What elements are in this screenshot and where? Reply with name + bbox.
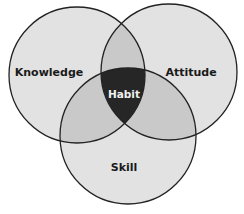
skill-label: Skill bbox=[111, 161, 138, 174]
knowledge-label: Knowledge bbox=[15, 66, 84, 79]
attitude-label: Attitude bbox=[165, 66, 216, 79]
habit-label: Habit bbox=[108, 88, 140, 100]
venn-diagram: Knowledge Attitude Skill Habit bbox=[0, 0, 244, 214]
